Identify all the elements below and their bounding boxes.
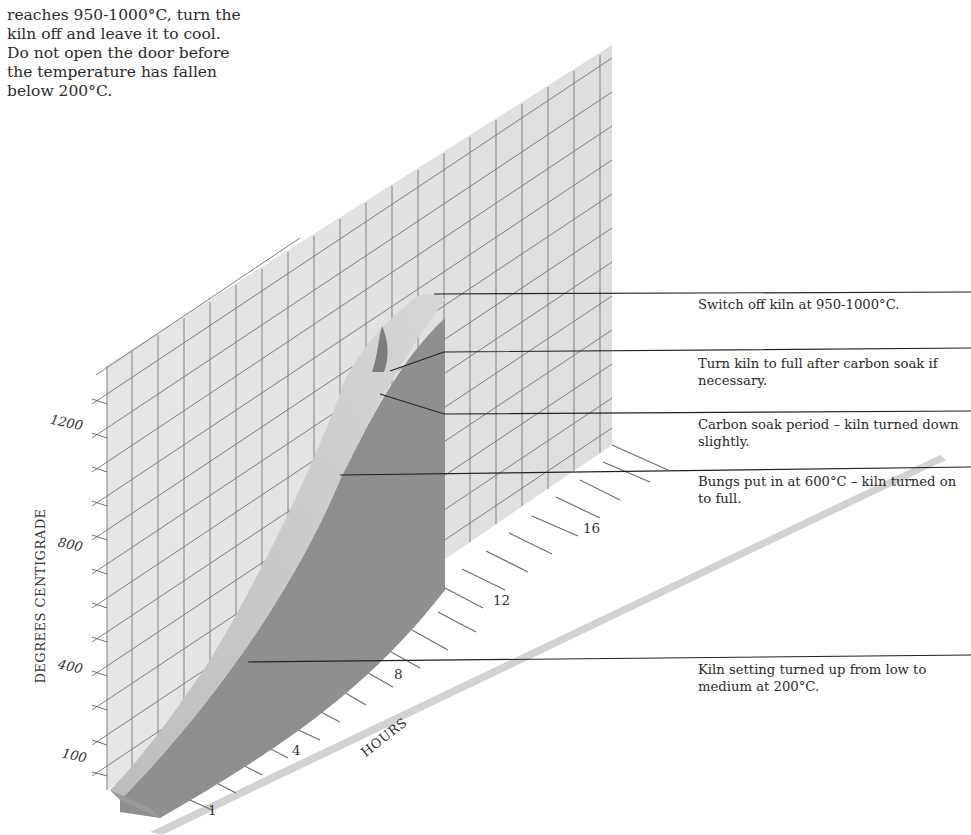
x-tick-1: 1 bbox=[208, 802, 217, 818]
x-tick-16: 16 bbox=[583, 520, 600, 536]
annotation-carbon-soak: Carbon soak period – kiln turned down sl… bbox=[698, 416, 971, 450]
y-axis-title: DEGREES CENTIGRADE bbox=[33, 508, 48, 683]
x-tick-4: 4 bbox=[292, 742, 301, 758]
annotation-switch-off: Switch off kiln at 950-1000°C. bbox=[698, 296, 971, 313]
x-tick-12: 12 bbox=[493, 592, 510, 608]
annotation-bungs: Bungs put in at 600°C – kiln turned on t… bbox=[698, 473, 971, 507]
y-axis-ticks bbox=[92, 399, 107, 776]
annotation-turn-full: Turn kiln to full after carbon soak if n… bbox=[698, 355, 971, 389]
annotation-setting-up: Kiln setting turned up from low to mediu… bbox=[698, 661, 971, 695]
x-tick-8: 8 bbox=[394, 666, 403, 682]
